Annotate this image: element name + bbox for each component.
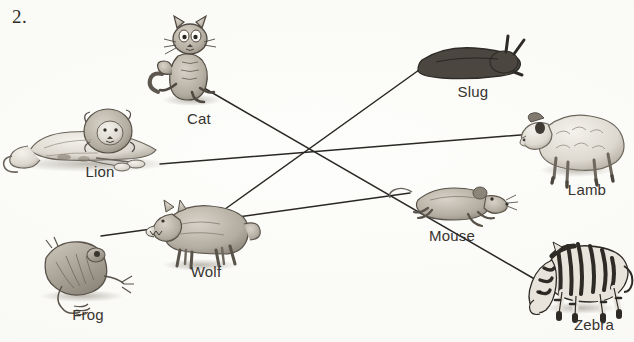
- connector-lion-lamb[interactable]: [160, 133, 545, 164]
- worksheet-page: 2.: [0, 0, 634, 342]
- label-frog: Frog: [72, 306, 104, 323]
- label-zebra: Zebra: [574, 316, 614, 333]
- label-wolf: Wolf: [191, 263, 222, 280]
- label-lion: Lion: [85, 163, 114, 180]
- label-mouse: Mouse: [429, 227, 475, 244]
- label-slug: Slug: [458, 83, 489, 100]
- connector-slug-wolf[interactable]: [221, 70, 419, 212]
- connector-frog-mouse[interactable]: [101, 193, 410, 236]
- label-lamb: Lamb: [568, 181, 606, 198]
- connector-cat-zebra[interactable]: [204, 88, 538, 281]
- label-cat: Cat: [187, 110, 211, 127]
